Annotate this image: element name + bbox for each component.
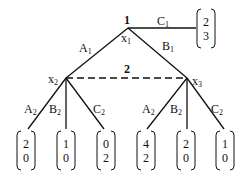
node-x1-label: x1: [121, 32, 131, 46]
edge-x2-a2-label: A2: [24, 103, 37, 117]
node-x3-label: x3: [192, 75, 202, 89]
payoff-c1: 23: [197, 15, 215, 43]
edge-x3-b2-label: B2: [170, 103, 182, 117]
edge-c1-label: C1: [157, 15, 169, 29]
node-x2-label: x2: [48, 73, 58, 87]
edge-x3-c2-label: C2: [211, 103, 223, 117]
info-set-player-2-label: 2: [124, 63, 130, 75]
payoff-x3-a2: 42: [137, 137, 155, 165]
payoff-x2-b2: 10: [57, 137, 75, 165]
payoff-x3-c2: 10: [216, 137, 234, 165]
edge-x2-b2-label: B2: [49, 103, 61, 117]
edge-a1-label: A1: [79, 42, 92, 56]
payoff-x3-b2: 20: [177, 137, 195, 165]
payoff-x2-a2: 20: [17, 137, 35, 165]
edge-x3-a2-label: A2: [142, 103, 155, 117]
edge-x2-c2-label: C2: [93, 103, 105, 117]
player-1-label: 1: [124, 14, 130, 26]
edge-b1-label: B1: [162, 40, 174, 54]
payoff-x2-c2: 02: [97, 137, 115, 165]
